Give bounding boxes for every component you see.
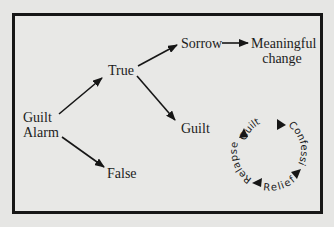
node-false: False bbox=[107, 166, 137, 181]
node-guilt-alarm-line2: Alarm bbox=[23, 125, 59, 140]
node-guilt: Guilt bbox=[181, 121, 210, 136]
arrow-true-to-sorrow bbox=[138, 45, 177, 66]
cycle-label-relapse: Relapse bbox=[228, 141, 253, 186]
node-sorrow: Sorrow bbox=[181, 36, 222, 51]
node-meaningful-change-line2: change bbox=[251, 51, 313, 66]
cycle-arrowhead-icon bbox=[277, 119, 286, 130]
node-guilt-alarm-line1: Guilt bbox=[23, 110, 59, 125]
cycle-label-relief: Relief bbox=[263, 174, 297, 193]
cycle-label-confession: Confession bbox=[0, 0, 310, 167]
cycle-arrowhead-icon bbox=[252, 178, 262, 187]
arrow-alarm-to-false bbox=[62, 137, 104, 167]
node-true: True bbox=[108, 63, 134, 78]
arrow-alarm-to-true bbox=[59, 78, 102, 114]
cycle-label-guilt: Guilt bbox=[237, 116, 261, 142]
node-meaningful-change: Meaningful change bbox=[251, 36, 313, 66]
node-meaningful-change-line1: Meaningful bbox=[251, 36, 313, 51]
arrow-true-to-guilt bbox=[137, 76, 175, 120]
node-guilt-alarm: Guilt Alarm bbox=[23, 110, 59, 140]
